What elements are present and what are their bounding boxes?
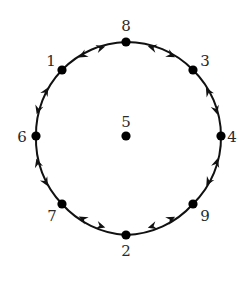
- node-label-6: 6: [17, 128, 27, 146]
- node-3: [188, 65, 197, 74]
- node-label-2: 2: [121, 242, 131, 260]
- edge-9-2: [126, 204, 193, 235]
- node-label-3: 3: [200, 52, 210, 70]
- edge-8-3: [126, 42, 193, 70]
- node-label-7: 7: [47, 207, 57, 225]
- edge-4-9: [193, 136, 221, 204]
- node-label-9: 9: [200, 207, 210, 225]
- edge-1-8: [62, 42, 126, 70]
- edge-2-7: [62, 204, 126, 235]
- edge-3-4: [193, 70, 221, 136]
- node-label-1: 1: [46, 52, 56, 70]
- node-2: [121, 230, 130, 239]
- nodes-group: [31, 37, 225, 239]
- node-1: [57, 65, 66, 74]
- node-7: [57, 199, 66, 208]
- node-label-4: 4: [227, 128, 237, 146]
- node-5: [121, 131, 130, 140]
- node-label-8: 8: [121, 17, 131, 35]
- cycle-diagram: 834927615: [0, 0, 250, 283]
- node-6: [31, 131, 40, 140]
- edge-7-6: [36, 136, 62, 204]
- node-9: [188, 199, 197, 208]
- node-4: [216, 131, 225, 140]
- node-label-5: 5: [121, 113, 131, 131]
- node-8: [121, 37, 130, 46]
- edge-6-1: [36, 70, 62, 136]
